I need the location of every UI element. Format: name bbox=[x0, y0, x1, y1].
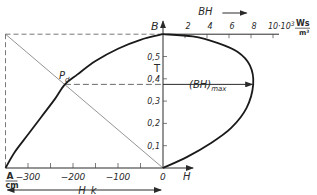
bhmax-label: (BH)max bbox=[189, 79, 227, 93]
unit-denominator-cm: cm bbox=[6, 181, 19, 190]
svg-text:(BH)max: (BH)max bbox=[189, 79, 227, 93]
h-axis-right-label: H bbox=[183, 171, 191, 182]
bhmax-main: (BH) bbox=[189, 79, 211, 90]
energy-product-curve bbox=[163, 34, 253, 168]
bh-tick-label: 10 bbox=[268, 22, 278, 31]
bh-tick-label: 2 bbox=[185, 22, 190, 31]
bh-tick-label: 4 bbox=[207, 22, 212, 31]
b-tick-label: 0,5 bbox=[147, 53, 160, 62]
b-unit-label: T bbox=[153, 63, 161, 74]
h-tick-label: −300 bbox=[16, 172, 41, 182]
chart: −300−200−100 0,10,20,30,40,5 246810 B T … bbox=[0, 0, 317, 195]
h-tick-label: −200 bbox=[61, 172, 86, 182]
bh-tick-label: 8 bbox=[251, 22, 256, 31]
b-tick-label: 0,3 bbox=[147, 97, 160, 106]
b-tick-label: 0,1 bbox=[147, 142, 160, 151]
pd-sub: d bbox=[65, 76, 70, 84]
origin-label: 0 bbox=[160, 172, 166, 182]
pd-label: Pd bbox=[59, 70, 70, 84]
bh-unit-denominator: m³ bbox=[299, 29, 309, 37]
bh-tick-label: 6 bbox=[229, 22, 234, 31]
bh-unit-numerator: Ws bbox=[296, 19, 310, 28]
b-tick-label: 0,2 bbox=[147, 119, 160, 128]
b-axis-label: B bbox=[151, 20, 159, 33]
diagonal-line bbox=[6, 34, 164, 168]
bh-label: BH bbox=[198, 6, 213, 17]
hk-axis-label-group: H_k bbox=[8, 185, 162, 195]
h-tick-label: −100 bbox=[106, 172, 131, 182]
svg-text:Pd: Pd bbox=[59, 70, 70, 84]
bh-axis-title: BH bbox=[198, 6, 246, 17]
hk-label: H_k bbox=[78, 185, 98, 195]
b-tick-label: 0,4 bbox=[147, 75, 160, 84]
unit-numerator-a: A bbox=[7, 171, 14, 181]
bhmax-sub: max bbox=[211, 85, 227, 93]
bh-unit-prefix: ·103 bbox=[278, 20, 295, 31]
